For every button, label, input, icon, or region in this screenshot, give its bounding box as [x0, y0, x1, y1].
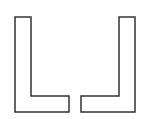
right-l-bracket-shape	[81, 17, 135, 112]
diagram-canvas	[0, 0, 142, 119]
left-l-bracket-shape	[15, 17, 69, 112]
